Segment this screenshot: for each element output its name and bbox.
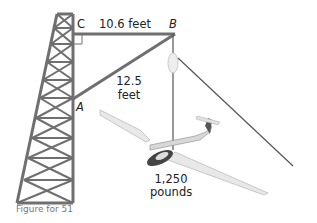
figure-caption: Figure for 51 xyxy=(16,204,73,214)
lattice-tower xyxy=(17,14,73,203)
cb-length-label: 10.6 feet xyxy=(99,18,151,31)
weight-unit: pounds xyxy=(150,186,192,199)
point-b-label: B xyxy=(169,18,177,31)
point-a-label: A xyxy=(76,101,84,114)
point-c-label: C xyxy=(77,18,85,31)
ab-length-unit: feet xyxy=(113,89,145,102)
tow-cable xyxy=(178,58,293,166)
pulley xyxy=(168,53,178,73)
ab-length-num: 12.5 xyxy=(113,75,145,88)
